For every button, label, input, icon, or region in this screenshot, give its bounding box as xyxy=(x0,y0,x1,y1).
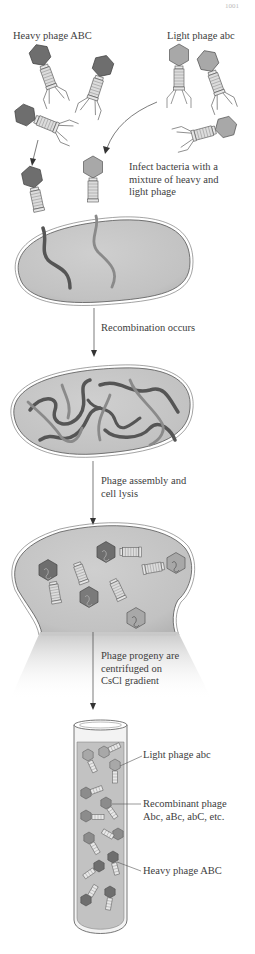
band-recombinant-label: Recombinant phage Abc, aBc, abC, etc. xyxy=(143,798,227,823)
light-phage-label: Light phage abc xyxy=(167,30,235,43)
assembly-lysis-label: Phage assembly and cell lysis xyxy=(101,475,186,500)
band-light-label: Light phage abc xyxy=(143,749,211,762)
band-heavy-label: Heavy phage ABC xyxy=(143,865,222,878)
centrifuge-label: Phage progeny are centrifuged on CsCl gr… xyxy=(101,650,179,688)
lysing-cell xyxy=(15,526,192,635)
infect-label: Infect bacteria with a mixture of heavy … xyxy=(129,161,219,199)
page-number: 1001 xyxy=(225,2,240,10)
recombination-label: Recombination occurs xyxy=(101,322,195,335)
heavy-phage-label: Heavy phage ABC xyxy=(13,30,92,43)
